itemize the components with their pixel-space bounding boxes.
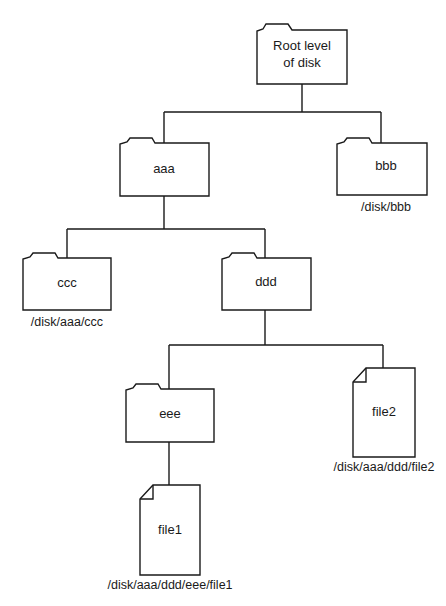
directory-tree-diagram: Root level of disk aaa bbb /disk/bbb ccc… [0, 0, 446, 606]
folder-root[interactable]: Root level of disk [257, 24, 347, 84]
folder-eee[interactable]: eee [126, 384, 214, 442]
folder-bbb-label: bbb [375, 158, 397, 173]
file-file2-name: file2 [372, 404, 396, 419]
edge-root-children [164, 84, 381, 143]
folder-aaa[interactable]: aaa [120, 138, 209, 196]
folder-icon [257, 24, 347, 84]
folder-aaa-label: aaa [153, 161, 175, 176]
folder-ccc-path: /disk/aaa/ccc [31, 315, 103, 329]
edge-ddd-children [169, 310, 383, 389]
file-file1-path: /disk/aaa/ddd/eee/file1 [107, 578, 232, 592]
folder-bbb-path: /disk/bbb [361, 200, 411, 214]
folder-bbb[interactable]: bbb /disk/bbb [337, 138, 427, 214]
file-file2[interactable]: /disk/aaa/ddd/file2 file2 /disk/aaa/ddd/… [334, 368, 435, 474]
file-file1[interactable]: file1 /disk/aaa/ddd/eee/file1 [107, 485, 232, 592]
folder-ccc[interactable]: ccc /disk/aaa/ccc [23, 253, 111, 329]
edge-aaa-children [67, 196, 265, 258]
folder-root-label-line2: of disk [283, 55, 321, 70]
file-file1-name: file1 [158, 522, 182, 537]
file-file2-path: /disk/aaa/ddd/file2 [334, 460, 435, 474]
folder-ddd[interactable]: ddd [222, 253, 311, 310]
folder-ccc-label: ccc [57, 275, 77, 290]
folder-root-label-line1: Root level [273, 38, 331, 53]
folder-ddd-label: ddd [255, 274, 277, 289]
folder-eee-label: eee [159, 406, 181, 421]
